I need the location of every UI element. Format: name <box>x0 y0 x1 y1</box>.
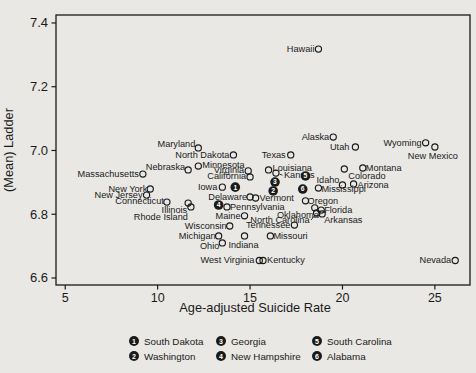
data-point-louisiana <box>265 167 271 173</box>
point-label-wisconsin: Wisconsin <box>185 221 227 231</box>
point-label-west-virginia: West Virginia <box>201 255 256 265</box>
point-label-missouri: Missouri <box>273 231 307 241</box>
data-point-north-dakota <box>230 152 236 158</box>
data-point-kentucky <box>260 257 266 263</box>
legend-label-alabama: Alabama <box>327 351 366 362</box>
y-tick-label-7.4: 7.4 <box>30 15 48 30</box>
data-point-maine <box>241 213 247 219</box>
point-label-connecticut: Connecticut <box>115 196 164 206</box>
legend-label-new-hampshire: New Hampshire <box>231 351 301 362</box>
legend-marker-number-south-carolina: 5 <box>315 338 319 345</box>
data-point-number-south-dakota: 1 <box>233 184 237 191</box>
x-tick-label-20: 20 <box>336 291 350 305</box>
point-label-idaho: Idaho <box>316 175 339 185</box>
point-label-texas: Texas <box>262 150 286 160</box>
data-point-nebraska <box>185 167 191 173</box>
data-point-alaska <box>330 134 336 140</box>
legend-marker-number-georgia: 3 <box>219 338 223 345</box>
x-tick-label-10: 10 <box>151 291 165 305</box>
y-axis-label: (Mean) Ladder <box>1 107 16 192</box>
x-tick-label-25: 25 <box>428 291 442 305</box>
point-label-nebraska: Nebraska <box>146 162 186 172</box>
data-point-minnesota <box>195 163 201 169</box>
point-label-hawaii: Hawaii <box>287 44 315 54</box>
point-label-california: California <box>207 171 247 181</box>
x-tick-label-5: 5 <box>62 291 69 305</box>
point-label-kentucky: Kentucky <box>267 255 305 265</box>
point-label-michigan: Michigan <box>179 231 216 241</box>
data-point-indiana <box>241 233 247 239</box>
legend-marker-number-washington: 2 <box>132 353 136 360</box>
data-point-hawaii <box>315 46 321 52</box>
point-label-arizona: Arizona <box>358 180 390 190</box>
data-point-colorado <box>341 166 347 172</box>
data-point-utah <box>352 144 358 150</box>
point-label-kansas: Kansas <box>284 170 315 180</box>
y-tick-label-6.6: 6.6 <box>30 270 48 285</box>
data-point-number-alabama: 6 <box>301 185 305 192</box>
data-point-ohio <box>219 240 225 246</box>
point-label-nevada: Nevada <box>420 255 453 265</box>
legend-label-south-carolina: South Carolina <box>327 336 392 347</box>
data-point-wyoming <box>423 140 429 146</box>
point-label-maine: Maine <box>215 211 240 221</box>
data-point-new-mexico <box>432 144 438 150</box>
point-label-iowa: Iowa <box>198 182 218 192</box>
chart-canvas: 5101520256.66.87.07.27.4HawaiiAlaskaUtah… <box>0 0 476 373</box>
leader-line-kansas <box>280 174 283 175</box>
data-point-nevada <box>452 257 458 263</box>
legend-marker-number-alabama: 6 <box>315 353 319 360</box>
data-point-massachusetts <box>140 171 146 177</box>
y-tick-label-7.0: 7.0 <box>30 143 48 158</box>
x-axis-label: Age-adjusted Suicide Rate <box>179 300 331 315</box>
point-label-wyoming: Wyoming <box>383 138 421 148</box>
point-label-new-mexico: New Mexico <box>408 151 458 161</box>
point-label-alaska: Alaska <box>302 132 330 142</box>
data-point-new-york <box>147 186 153 192</box>
legend-label-georgia: Georgia <box>231 336 266 347</box>
data-point-number-georgia: 3 <box>273 178 277 185</box>
legend-label-washington: Washington <box>144 351 195 362</box>
point-label-utah: Utah <box>330 142 349 152</box>
point-label-ohio: Ohio <box>200 241 219 251</box>
figure: 5101520256.66.87.07.27.4HawaiiAlaskaUtah… <box>0 0 476 373</box>
point-label-delaware: Delaware <box>208 192 247 202</box>
data-point-texas <box>288 152 294 158</box>
legend-marker-number-new-hampshire: 4 <box>219 353 223 360</box>
data-point-california <box>247 174 253 180</box>
point-label-rhode-island: Rhode Island <box>134 212 188 222</box>
y-tick-label-7.2: 7.2 <box>30 79 48 94</box>
y-tick-label-6.8: 6.8 <box>30 207 48 222</box>
legend-label-south-dakota: South Dakota <box>144 336 204 347</box>
point-label-florida: Florida <box>324 205 353 215</box>
point-label-north-dakota: North Dakota <box>175 150 230 160</box>
data-point-iowa <box>219 184 225 190</box>
data-point-wisconsin <box>227 223 233 229</box>
point-label-massachusetts: Massachusetts <box>78 169 140 179</box>
point-label-maryland: Maryland <box>158 139 196 149</box>
point-label-tennessee: Tennessee <box>246 220 290 230</box>
data-point-michigan <box>216 233 222 239</box>
point-label-arkansas: Arkansas <box>324 215 363 225</box>
data-point-number-new-hampshire: 4 <box>217 201 221 208</box>
legend-marker-number-south-dakota: 1 <box>132 338 136 345</box>
point-label-indiana: Indiana <box>228 240 259 250</box>
data-point-number-south-carolina: 5 <box>304 172 308 179</box>
